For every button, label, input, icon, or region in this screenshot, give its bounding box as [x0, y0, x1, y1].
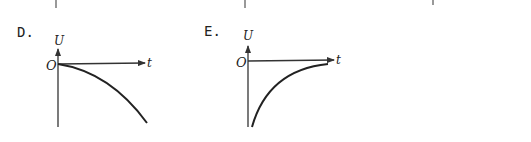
option-e-label: E.: [204, 23, 221, 39]
option-d-x-axis-label: t: [147, 56, 152, 70]
graph-options-canvas: D. U O t E. U O t: [0, 0, 531, 142]
option-e-curve: [252, 64, 328, 127]
option-d-x-axis: [58, 63, 145, 64]
option-e-y-axis-label: U: [243, 29, 254, 43]
option-d-y-axis-label: U: [54, 34, 65, 48]
option-e-x-axis-label: t: [336, 53, 341, 67]
option-e-origin-label: O: [236, 55, 247, 70]
option-e-graph: E. U O t: [204, 23, 341, 127]
option-e-x-axis: [248, 60, 334, 61]
option-d-origin-label: O: [46, 58, 57, 73]
option-d-label: D.: [17, 24, 34, 40]
option-d-curve: [58, 64, 147, 123]
option-d-graph: D. U O t: [17, 24, 152, 127]
